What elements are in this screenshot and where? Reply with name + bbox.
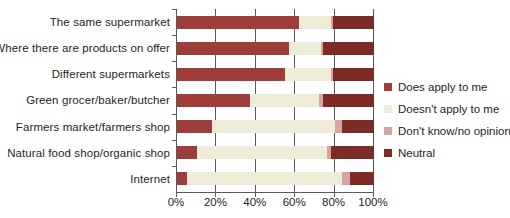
legend-label: Doesn't apply to me <box>398 103 499 115</box>
x-tick-label: 40% <box>233 196 277 208</box>
legend: Does apply to meDoesn't apply to meDon't… <box>384 76 510 164</box>
bar-segment <box>342 172 350 185</box>
bar-segment <box>177 172 187 185</box>
bar-segment <box>331 146 374 159</box>
category-label: Different supermarkets <box>0 61 170 87</box>
x-tick-label: 80% <box>312 196 356 208</box>
legend-item: Neutral <box>384 142 510 164</box>
bar-segment <box>342 120 374 133</box>
x-tick-label: 100% <box>351 196 395 208</box>
legend-swatch <box>384 83 392 91</box>
legend-label: Does apply to me <box>398 81 488 93</box>
category-label: Internet <box>0 166 170 192</box>
legend-swatch <box>384 149 392 157</box>
legend-item: Does apply to me <box>384 76 510 98</box>
bar-segment <box>285 68 330 81</box>
legend-item: Doesn't apply to me <box>384 98 510 120</box>
bar-segment <box>177 146 197 159</box>
bar-segment <box>212 120 334 133</box>
bar-segment <box>187 172 343 185</box>
legend-label: Don't know/no opinion <box>398 125 510 137</box>
x-tick-label: 20% <box>193 196 237 208</box>
bar-segment <box>350 172 374 185</box>
bar-segment <box>289 42 321 55</box>
y-axis-tick <box>172 35 176 36</box>
bar-segment <box>323 42 374 55</box>
y-axis-tick <box>172 166 176 167</box>
category-label: Green grocer/baker/butcher <box>0 87 170 113</box>
category-label: Farmers market/farmers shop <box>0 114 170 140</box>
bar-segment <box>177 16 299 29</box>
bar-segment <box>177 42 289 55</box>
x-tick-label: 0% <box>154 196 198 208</box>
bar-segment <box>299 16 331 29</box>
legend-item: Don't know/no opinion <box>384 120 510 142</box>
bar-segment <box>177 94 250 107</box>
category-label: The same supermarket <box>0 9 170 35</box>
category-label: Where there are products on offer <box>0 35 170 61</box>
legend-swatch <box>384 127 392 135</box>
legend-swatch <box>384 105 392 113</box>
bar-segment <box>333 68 374 81</box>
x-tick-label: 60% <box>272 196 316 208</box>
bar-segment <box>177 68 285 81</box>
stacked-bar-chart-figure: The same supermarketWhere there are prod… <box>0 0 510 218</box>
y-axis-tick <box>172 140 176 141</box>
bar-segment <box>250 94 319 107</box>
bar-segment <box>177 120 212 133</box>
y-axis-tick <box>172 114 176 115</box>
y-axis-tick <box>172 87 176 88</box>
bar-segment <box>335 120 343 133</box>
legend-label: Neutral <box>398 147 435 159</box>
bar-segment <box>197 146 327 159</box>
bar-segment <box>323 94 374 107</box>
category-labels: The same supermarketWhere there are prod… <box>0 9 170 192</box>
y-axis-tick <box>172 61 176 62</box>
plot-area <box>176 9 374 193</box>
bar-segment <box>333 16 374 29</box>
y-axis-tick <box>172 9 176 10</box>
category-label: Natural food shop/organic shop <box>0 140 170 166</box>
